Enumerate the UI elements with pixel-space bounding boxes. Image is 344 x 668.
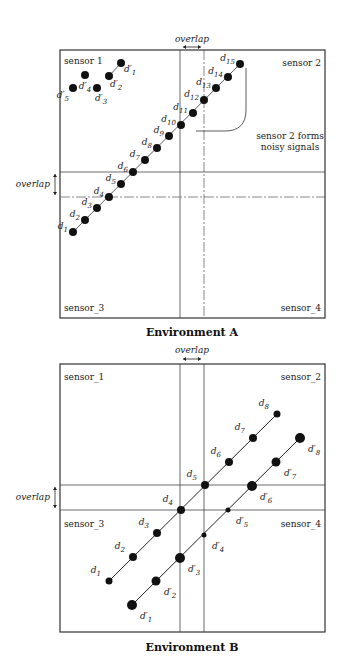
data-point-d5 (201, 481, 209, 489)
data-point-d-prime2 (152, 577, 161, 586)
data-point-d9 (165, 132, 173, 140)
data-point-d6 (225, 458, 233, 466)
data-point-d-prime6 (247, 481, 257, 491)
point-label: d12 (184, 89, 199, 102)
data-point-d-prime8 (295, 433, 305, 443)
point-label: d2 (70, 209, 81, 222)
point-label: d′4 (212, 541, 224, 554)
environment-a: overlap overlap sensor 1 sensor 2 sensor… (16, 34, 325, 339)
point-label: d15 (220, 53, 235, 66)
point-label: d′1 (124, 64, 136, 77)
data-point-d13 (212, 84, 220, 92)
data-point-d8 (153, 144, 161, 152)
data-point-d2 (81, 216, 89, 224)
point-label: d′5 (57, 90, 70, 103)
point-label: d6 (211, 446, 222, 459)
point-label: d4 (163, 494, 173, 507)
point-label: d′4 (79, 81, 91, 94)
point-label: d′3 (188, 564, 201, 577)
data-point-d-prime3 (175, 553, 185, 563)
data-point-d15 (236, 60, 244, 68)
data-point-d7 (141, 156, 149, 164)
noisy-note-line-2: noisy signals (261, 142, 320, 152)
data-point-d-prime3 (93, 84, 101, 92)
point-label: d5 (187, 469, 198, 482)
data-point-d-prime4 (202, 533, 207, 538)
point-label: d5 (106, 173, 117, 186)
point-label: d11 (173, 102, 188, 115)
point-label: d1 (91, 565, 101, 578)
env-b-sensor-2: sensor_2 (281, 372, 321, 383)
point-label: d3 (82, 197, 93, 210)
point-label: d7 (130, 149, 141, 162)
env-a-sensor-1: sensor 1 (64, 56, 103, 66)
env-b-sensor-3: sensor_3 (64, 519, 105, 530)
data-point-d-prime5 (226, 508, 231, 513)
env-a-sensor-4: sensor_4 (281, 303, 322, 314)
point-label: d9 (154, 125, 165, 138)
data-point-d11 (189, 109, 197, 117)
data-point-d-prime5 (69, 84, 77, 92)
point-label: d1 (58, 221, 68, 234)
data-point-d3 (93, 204, 101, 212)
point-label: d14 (208, 66, 223, 79)
env-b-overlap-top-label: overlap (175, 345, 209, 355)
data-point-d12 (200, 96, 208, 104)
point-label: d10 (161, 114, 176, 127)
data-point-d14 (224, 73, 232, 81)
data-point-d2 (129, 553, 137, 561)
env-a-overlap-left-label: overlap (16, 179, 50, 189)
env-b-sensor-1: sensor_1 (64, 372, 104, 383)
env-b-sensor-4: sensor_4 (281, 519, 322, 530)
point-label: d8 (142, 137, 153, 150)
point-label: d7 (235, 422, 246, 435)
data-point-d6 (129, 168, 137, 176)
noisy-note-line-1: sensor 2 forms (256, 131, 324, 141)
point-label: d8 (259, 398, 270, 411)
point-label: d3 (139, 517, 150, 530)
data-point-d-prime4 (81, 71, 89, 79)
sensor-overlap-diagram: overlap overlap sensor 1 sensor 2 sensor… (0, 0, 344, 668)
env-b-d-points: d1d2d3d4d5d6d7d8 (91, 398, 281, 585)
env-a-sensor-3: sensor_3 (64, 303, 105, 314)
data-point-d-prime7 (272, 458, 281, 467)
point-label: d2 (115, 541, 126, 554)
data-point-d3 (153, 529, 161, 537)
point-label: d′2 (164, 587, 177, 600)
env-a-caption: Environment A (146, 326, 239, 339)
point-label: d′2 (110, 79, 123, 92)
point-label: d′7 (284, 468, 297, 481)
point-label: d′3 (95, 93, 108, 106)
data-point-d4 (177, 506, 185, 514)
env-a-sensor-2: sensor 2 (282, 58, 321, 68)
point-label: d′5 (236, 516, 249, 529)
point-label: d′1 (140, 611, 152, 624)
point-label: d′8 (308, 444, 321, 457)
env-b-caption: Environment B (146, 641, 239, 654)
data-point-d7 (249, 434, 257, 442)
data-point-d-prime1 (127, 600, 137, 610)
data-point-d1 (69, 228, 77, 236)
point-label: d4 (94, 186, 104, 199)
environment-b: overlap overlap sensor_1 sensor_2 sensor… (16, 345, 325, 654)
data-point-d8 (274, 411, 281, 418)
env-a-overlap-top-label: overlap (175, 34, 209, 44)
data-point-d5 (117, 180, 125, 188)
point-label: d′6 (260, 492, 273, 505)
data-point-d10 (177, 121, 185, 129)
data-point-d1 (106, 578, 113, 585)
env-b-overlap-left-label: overlap (16, 492, 50, 502)
data-point-d4 (105, 193, 113, 201)
